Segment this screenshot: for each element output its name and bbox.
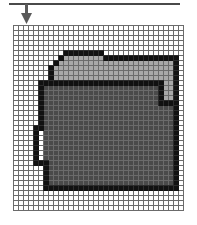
figure-stage [0,0,197,225]
down-arrow-icon [20,3,36,25]
grid-area [13,25,184,211]
